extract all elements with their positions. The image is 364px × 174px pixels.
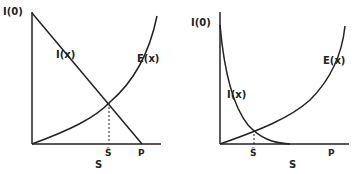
- right-chart: I(0) I(x) E(x) Ŝ P S: [191, 12, 349, 170]
- right-i-curve: [220, 25, 290, 144]
- left-i-curve: [32, 13, 142, 144]
- left-y-label: I(0): [3, 6, 23, 17]
- right-p-label: P: [328, 148, 335, 158]
- right-i-label: I(x): [227, 89, 246, 100]
- left-chart: I(0) I(x) E(x) Ŝ P S: [3, 6, 161, 170]
- right-s-hat-label: Ŝ: [250, 147, 256, 158]
- left-i-label: I(x): [56, 49, 75, 60]
- left-s-hat-label: Ŝ: [105, 147, 111, 158]
- right-e-curve: [220, 26, 345, 144]
- left-p-label: P: [138, 148, 145, 158]
- right-x-label: S: [289, 159, 296, 170]
- left-x-label: S: [95, 159, 102, 170]
- right-y-label: I(0): [191, 17, 211, 28]
- left-e-label: E(x): [137, 53, 159, 64]
- right-e-label: E(x): [323, 55, 345, 66]
- diagram-canvas: I(0) I(x) E(x) Ŝ P S I(0) I(x) E(x) Ŝ P …: [0, 0, 364, 174]
